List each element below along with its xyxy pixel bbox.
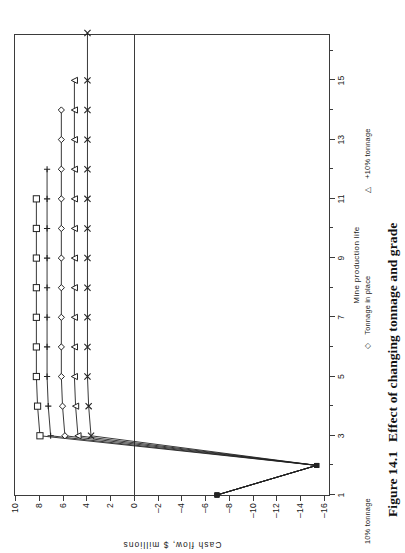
series-cross	[84, 30, 319, 497]
x-tick-label: 11	[336, 194, 346, 203]
y-tick	[15, 495, 16, 501]
y-tick	[181, 495, 182, 501]
series-lines	[15, 33, 331, 495]
x-tick-label: 3	[336, 433, 346, 438]
x-tick-minor	[329, 405, 333, 406]
legend: 10% tonnage ◇ Tonnage in place △ +10% to…	[361, 7, 377, 547]
y-axis-title: Cash flow, $ millions	[123, 540, 222, 550]
x-tick-label: 13	[336, 135, 346, 145]
x-tick-minor	[329, 227, 333, 228]
y-tick	[229, 495, 230, 501]
figure-page: 1086420–2–4–6–8–10–12–14–16 13579111315 …	[0, 0, 405, 553]
y-tick-label: –2	[153, 503, 163, 513]
y-tick	[39, 495, 40, 501]
rotated-figure: 1086420–2–4–6–8–10–12–14–16 13579111315 …	[0, 0, 405, 553]
x-tick-label: 7	[336, 315, 346, 320]
figure-number: Figure 14.1	[385, 451, 400, 517]
x-tick-label: 15	[336, 75, 346, 85]
y-tick-label: 8	[34, 503, 44, 508]
x-tick-label: 5	[336, 374, 346, 379]
x-tick-minor	[329, 109, 333, 110]
x-tick	[329, 139, 335, 140]
x-tick-label: 1	[336, 493, 346, 498]
x-tick-minor	[329, 287, 333, 288]
legend-item-2: △ +10% tonnage	[363, 128, 372, 195]
x-tick	[329, 316, 335, 317]
triangle-icon: △	[363, 184, 372, 195]
x-tick-minor	[329, 346, 333, 347]
y-tick	[300, 495, 301, 501]
y-tick	[110, 495, 111, 501]
legend-label-0: 10% tonnage	[363, 498, 372, 544]
y-tick-label: –14	[295, 503, 305, 518]
figure-caption-text: Effect of changing tonnage and grade	[385, 223, 400, 442]
y-tick-label: 2	[105, 503, 115, 508]
y-tick	[86, 495, 87, 501]
y-tick-label: –4	[176, 503, 186, 513]
x-tick	[329, 435, 335, 436]
x-tick	[329, 257, 335, 258]
y-tick	[158, 495, 159, 501]
x-tick	[329, 494, 335, 495]
y-tick	[276, 495, 277, 501]
y-tick	[205, 495, 206, 501]
x-tick	[329, 79, 335, 80]
x-tick	[329, 376, 335, 377]
y-tick-label: 6	[58, 503, 68, 508]
x-axis-title: Mine production life	[352, 226, 361, 303]
x-tick	[329, 198, 335, 199]
y-tick-label: –10	[248, 503, 258, 518]
y-tick-label: 10	[10, 503, 20, 513]
legend-item-0: 10% tonnage	[363, 498, 372, 547]
y-tick	[63, 495, 64, 501]
y-tick-label: –8	[224, 503, 234, 513]
x-tick-minor	[329, 464, 333, 465]
y-tick	[134, 495, 135, 501]
y-tick	[253, 495, 254, 501]
y-tick-label: –16	[319, 503, 329, 518]
y-tick	[324, 495, 325, 501]
plot-area: 1086420–2–4–6–8–10–12–14–16 13579111315	[14, 34, 330, 496]
legend-label-1: Tonnage in place	[363, 276, 372, 335]
y-tick-label: 4	[81, 503, 91, 508]
y-tick-label: –12	[271, 503, 281, 518]
figure-caption: Figure 14.1Effect of changing tonnage an…	[385, 223, 401, 517]
x-tick-label: 9	[336, 256, 346, 261]
series-triangle	[71, 77, 319, 497]
y-tick-label: 0	[129, 503, 139, 508]
legend-item-1: ◇ Tonnage in place	[363, 276, 372, 351]
legend-label-2: +10% tonnage	[363, 128, 372, 178]
series-diamond	[58, 107, 319, 498]
y-tick-label: –6	[200, 503, 210, 513]
x-tick-minor	[329, 50, 333, 51]
diamond-icon: ◇	[363, 340, 372, 351]
x-tick-minor	[329, 168, 333, 169]
